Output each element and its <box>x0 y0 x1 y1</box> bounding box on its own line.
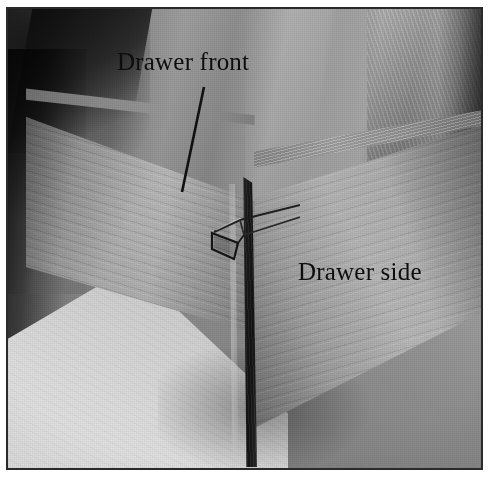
photo-frame: Drawer front Drawer side <box>6 7 483 470</box>
rabbet-joint-detail <box>204 199 300 261</box>
label-drawer-front: Drawer front <box>117 49 249 74</box>
label-drawer-side: Drawer side <box>298 259 422 284</box>
drawer-front-top-edge <box>26 69 264 139</box>
figure-page: Drawer front Drawer side <box>0 0 491 486</box>
photograph: Drawer front Drawer side <box>8 9 481 468</box>
